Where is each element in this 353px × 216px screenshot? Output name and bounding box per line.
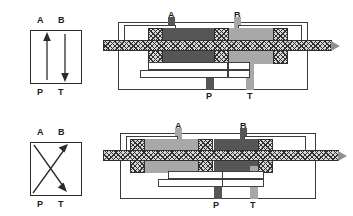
section2-lower-gallery-inner [158, 179, 230, 187]
symbol-parallel-label-b: B [58, 16, 65, 25]
section2-rod-tip [338, 151, 347, 161]
symbol-crossed-label-p: P [37, 200, 43, 209]
symbol-parallel-label-a: A [37, 16, 44, 25]
symbol-crossed-label-a: A [37, 128, 44, 137]
section-position-1-panel: A B P T [110, 0, 353, 108]
section2-label-t: T [250, 201, 256, 210]
section1-lower-gallery-outer [148, 62, 228, 70]
section1-label-t: T [247, 92, 253, 101]
symbol-crossed-label-b: B [58, 128, 65, 137]
symbol-crossed-panel: A B P T [0, 108, 110, 216]
symbol-parallel-arrows [30, 30, 82, 84]
section2-label-p: P [213, 201, 219, 210]
section1-rod-tip [331, 41, 340, 51]
symbol-crossed-label-t: T [58, 200, 64, 209]
section-position-2-panel: A B P T [110, 108, 353, 216]
symbol-crossed-arrows [30, 142, 82, 196]
section2-lower-gallery-right2 [222, 179, 264, 187]
symbol-parallel-panel: A B P T [0, 0, 110, 108]
section1-lower-gallery-inner [140, 70, 228, 78]
section1-label-p: P [206, 92, 212, 101]
section1-lower-gallery-right2 [228, 70, 250, 78]
section2-lower-gallery-outer [168, 171, 230, 179]
section1-lower-gallery-right [228, 62, 250, 70]
symbol-parallel-label-p: P [37, 88, 43, 97]
section2-lower-gallery-right [222, 171, 264, 179]
section1-spool-rod [103, 40, 332, 51]
section2-spool-rod [103, 150, 339, 161]
symbol-parallel-label-t: T [58, 88, 64, 97]
